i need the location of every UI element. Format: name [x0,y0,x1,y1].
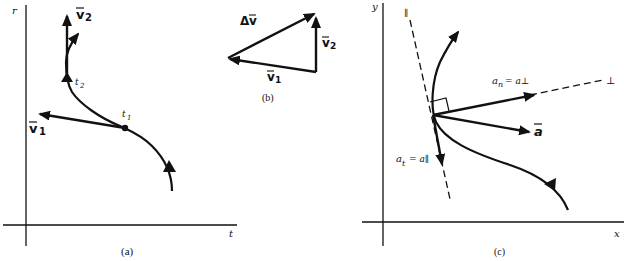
r-axis-label: r [12,5,18,16]
svg-text:n: n [498,80,503,89]
v2-label: v 2 [76,7,92,23]
v2-label-b: v 2 [322,36,336,51]
t-axis-label: t [229,228,234,239]
at-vector [433,115,442,164]
panel-a: r t v 2 t 2 t 1 v 1 [3,5,237,258]
svg-text:2: 2 [79,82,85,90]
x-axis-label: x [614,228,620,239]
perpendicular-symbol: ⊥ [606,75,615,86]
svg-text:v: v [76,7,85,22]
t2-label: t 2 [75,77,85,90]
svg-text:1: 1 [127,114,131,122]
caption-c: (c) [494,246,505,258]
svg-text:t: t [75,77,79,87]
panel-b: Δ v v 2 v 1 (b) [228,14,336,104]
at-label: a t = a∥ [396,153,429,168]
svg-text:2: 2 [330,41,336,51]
t1-label: t 1 [122,109,131,122]
svg-text:2: 2 [85,12,92,23]
svg-text:= a⊥: = a⊥ [505,76,529,86]
svg-text:t: t [402,159,406,168]
an-label: a n = a⊥ [492,75,529,89]
trajectory-curve [66,34,172,191]
figure-canvas: r t v 2 t 2 t 1 v 1 [0,0,624,261]
svg-text:= a∥: = a∥ [409,154,429,164]
caption-a: (a) [121,245,134,258]
svg-text:v: v [322,36,330,50]
a-vector [433,115,529,132]
svg-text:t: t [122,109,126,119]
tangent-dashed-line [410,20,450,199]
v1-label: v 1 [29,121,46,137]
parallel-symbol: ∥ [404,8,408,18]
direction-arrow-icon [544,178,556,191]
a-label: a [534,124,543,139]
svg-text:v: v [249,14,257,28]
svg-text:1: 1 [275,75,281,85]
svg-text:v: v [267,70,275,84]
caption-b: (b) [262,92,274,104]
panel-c: y x ∥ ⊥ a n = a⊥ a a t = a∥ [362,1,624,258]
y-axis-label: y [371,1,378,12]
svg-text:a: a [534,124,543,139]
svg-text:v: v [29,121,38,136]
svg-text:1: 1 [39,126,46,137]
normal-dashed-line [530,80,603,95]
v1-label-b: v 1 [267,70,281,85]
delta-v-label: Δ v [240,14,257,28]
v1-vector [40,114,125,128]
